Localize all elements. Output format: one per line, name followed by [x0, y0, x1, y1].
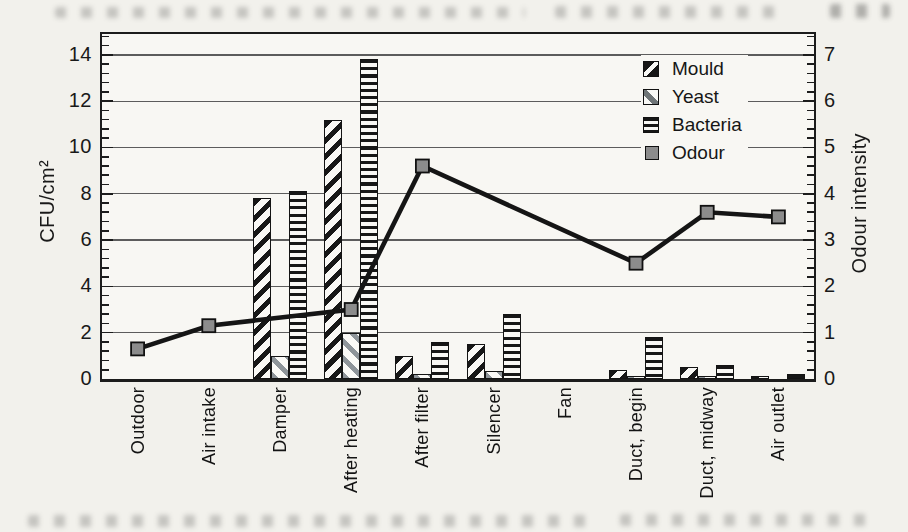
scanned-chart-page: CFU/cm² Odour intensity 0246810121401234…	[0, 0, 908, 532]
right-tick-label-0: 0	[824, 367, 860, 390]
chart-legend: MouldYeastBacteriaOdour	[641, 55, 748, 167]
odour-marker-5	[701, 206, 714, 219]
odour-marker-6	[772, 210, 785, 223]
legend-item-bacteria: Bacteria	[641, 111, 748, 139]
right-tick-label-5: 5	[824, 135, 860, 158]
x-label-9: Air outlet	[767, 387, 789, 461]
x-label-5: Silencer	[483, 387, 505, 454]
x-label-0: Outdoor	[127, 387, 149, 454]
odour-marker-3	[416, 160, 429, 173]
odour-marker-0	[131, 342, 144, 355]
left-tick-label-6: 6	[52, 228, 92, 251]
left-tick-label-2: 2	[52, 321, 92, 344]
odour-marker-4	[630, 257, 643, 270]
right-tick-label-2: 2	[824, 274, 860, 297]
legend-item-odour: Odour	[641, 139, 748, 167]
left-tick-label-8: 8	[52, 182, 92, 205]
x-label-6: Fan	[554, 387, 576, 419]
odour-marker-1	[202, 319, 215, 332]
left-tick-label-12: 12	[52, 89, 92, 112]
legend-label: Bacteria	[672, 114, 742, 136]
scan-artifact-bottom-1	[28, 515, 588, 527]
legend-label: Yeast	[672, 86, 719, 108]
yeast-swatch-icon	[643, 89, 659, 105]
left-tick-label-10: 10	[52, 135, 92, 158]
left-tick-label-0: 0	[52, 367, 92, 390]
right-tick-label-7: 7	[824, 43, 860, 66]
x-label-4: After filter	[411, 387, 433, 468]
x-label-1: Air intake	[198, 387, 220, 465]
right-tick-label-4: 4	[824, 182, 860, 205]
right-tick-label-6: 6	[824, 89, 860, 112]
legend-label: Mould	[672, 58, 724, 80]
left-tick-label-14: 14	[52, 43, 92, 66]
left-tick-label-4: 4	[52, 274, 92, 297]
bacteria-swatch-icon	[643, 117, 659, 133]
legend-label: Odour	[672, 142, 725, 164]
legend-item-yeast: Yeast	[641, 83, 748, 111]
odour-marker-2	[345, 303, 358, 316]
right-tick-label-1: 1	[824, 321, 860, 344]
odour-swatch-icon	[645, 146, 659, 160]
mould-swatch-icon	[643, 61, 659, 77]
scan-artifact-top-3	[830, 4, 890, 18]
scan-artifact-top-1	[55, 7, 525, 18]
x-label-3: After heating	[340, 387, 362, 493]
odour-line	[138, 166, 779, 349]
x-label-7: Duct, begin	[625, 387, 647, 481]
scan-artifact-top-2	[555, 6, 780, 18]
legend-item-mould: Mould	[641, 55, 748, 83]
x-label-2: Damper	[269, 387, 291, 453]
x-label-8: Duct, midway	[696, 387, 718, 499]
right-tick-label-3: 3	[824, 228, 860, 251]
scan-artifact-bottom-2	[620, 514, 870, 526]
